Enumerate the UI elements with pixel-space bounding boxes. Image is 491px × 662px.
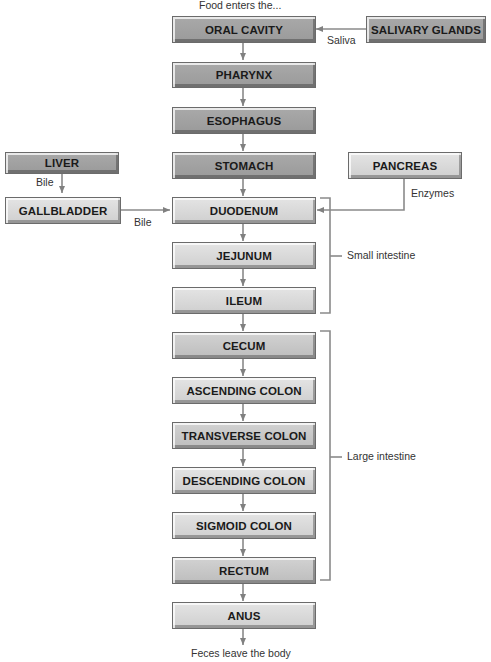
box-ascending-colon: ASCENDING COLON xyxy=(172,377,316,404)
box-rectum: RECTUM xyxy=(172,557,316,584)
start-label: Food enters the... xyxy=(199,0,281,11)
box-esophagus: ESOPHAGUS xyxy=(172,107,316,134)
box-oral-cavity: ORAL CAVITY xyxy=(172,16,316,43)
end-label: Feces leave the body xyxy=(191,647,291,659)
box-descending-colon: DESCENDING COLON xyxy=(172,467,316,494)
box-sigmoid-colon: SIGMOID COLON xyxy=(172,512,316,539)
box-liver: LIVER xyxy=(5,152,119,174)
box-stomach: STOMACH xyxy=(172,152,316,179)
large-intestine-label: Large intestine xyxy=(347,450,416,462)
box-pharynx: PHARYNX xyxy=(172,62,316,88)
saliva-label: Saliva xyxy=(327,34,356,46)
box-pancreas: PANCREAS xyxy=(348,152,462,179)
bile-label-gallbladder: Bile xyxy=(134,216,152,228)
box-anus: ANUS xyxy=(172,602,316,629)
small-intestine-label: Small intestine xyxy=(347,249,415,261)
enzymes-label: Enzymes xyxy=(411,187,454,199)
box-duodenum: DUODENUM xyxy=(172,197,316,224)
box-cecum: CECUM xyxy=(172,332,316,359)
box-transverse-colon: TRANSVERSE COLON xyxy=(172,422,316,449)
bile-label-liver: Bile xyxy=(36,176,54,188)
box-salivary-glands: SALIVARY GLANDS xyxy=(366,16,486,43)
box-gallbladder: GALLBLADDER xyxy=(5,197,121,224)
box-jejunum: JEJUNUM xyxy=(172,242,316,269)
box-ileum: ILEUM xyxy=(172,287,316,314)
